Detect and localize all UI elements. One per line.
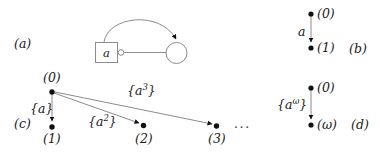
node-1-dot	[308, 45, 313, 50]
transition-box-label: a	[103, 48, 110, 60]
node-omega-dot	[308, 122, 313, 127]
panel-c-node-2-label: (2)	[135, 133, 153, 146]
panel-c-edge-label-a1: {a}	[30, 103, 53, 116]
edge-label-a2-suffix: }	[109, 114, 117, 129]
curved-edge	[104, 20, 176, 42]
panel-d-edge-label: {aω}	[277, 99, 307, 112]
panel-b-node-0-label: (0)	[317, 8, 335, 21]
panel-c-edge-label-a3: {a3}	[127, 85, 156, 98]
panel-label-b: (b)	[349, 43, 367, 56]
edge-label-a3-suffix: }	[148, 83, 156, 98]
edge-label-a1-suffix: }	[45, 101, 53, 116]
hollow-circle-port-icon	[118, 50, 124, 56]
node-0-dot	[308, 11, 313, 16]
node-0-dot	[49, 89, 54, 94]
figure-canvas: (1) ============ --> (w) ============ --…	[0, 0, 380, 154]
panel-d-graphics	[308, 85, 313, 127]
edge-label-a3-prefix: {a	[127, 83, 142, 98]
panel-d-edge-label-prefix: {a	[277, 97, 292, 112]
panel-b-graphics	[308, 11, 313, 50]
edge-label-a1-prefix: {a	[30, 101, 45, 116]
panel-label-a: (a)	[14, 38, 31, 51]
panel-c-edge-label-a2: {a2}	[88, 116, 117, 129]
panel-label-c: (c)	[14, 118, 31, 131]
panel-label-d: (d)	[351, 119, 369, 132]
node-1-dot	[49, 124, 54, 129]
panel-d-edge-label-suffix: }	[299, 97, 307, 112]
panel-b-edge-label: a	[298, 26, 305, 39]
panel-d-node-omega-label: (ω)	[317, 119, 337, 132]
edge-label-a2-prefix: {a	[88, 114, 103, 129]
panel-c-node-0-label: (0)	[43, 72, 61, 85]
node-3-dot	[214, 123, 219, 128]
circle-state-icon	[166, 43, 187, 64]
panel-c-ellipsis: ···	[234, 122, 251, 135]
panel-c-node-1-label: (1)	[43, 133, 61, 146]
node-0-dot	[308, 85, 313, 90]
node-2-dot	[141, 123, 146, 128]
panel-d-node-0-label: (0)	[317, 82, 335, 95]
panel-b-node-1-label: (1)	[317, 42, 335, 55]
panel-c-node-3-label: (3)	[208, 133, 226, 146]
